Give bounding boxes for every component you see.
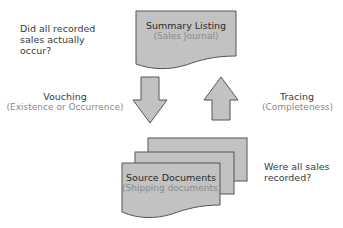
source-documents-title: Source Documents <box>122 172 220 183</box>
arrow-down-icon <box>133 77 167 123</box>
tracing-title: Tracing <box>262 91 332 102</box>
tracing-subtitle: (Completeness) <box>262 102 332 113</box>
summary-document-subtitle: (Sales Journal) <box>136 31 236 42</box>
question-line: sales actually <box>20 34 95 45</box>
source-documents-label: Source Documents (Shipping documents) <box>122 172 220 194</box>
tracing-label: Tracing (Completeness) <box>262 91 332 113</box>
question-completeness: Were all sales recorded? <box>264 161 330 183</box>
question-line: recorded? <box>264 172 330 183</box>
vouching-label: Vouching (Existence or Occurrence) <box>5 91 125 113</box>
question-line: occur? <box>20 45 95 56</box>
vouching-title: Vouching <box>5 91 125 102</box>
question-line: Were all sales <box>264 161 330 172</box>
summary-document-label: Summary Listing (Sales Journal) <box>136 20 236 42</box>
summary-document-title: Summary Listing <box>136 20 236 31</box>
source-documents-subtitle: (Shipping documents) <box>122 183 220 194</box>
arrow-up-icon <box>204 77 238 120</box>
question-line: Did all recorded <box>20 23 95 34</box>
question-occurrence: Did all recorded sales actually occur? <box>20 23 95 56</box>
vouching-subtitle: (Existence or Occurrence) <box>5 102 125 113</box>
